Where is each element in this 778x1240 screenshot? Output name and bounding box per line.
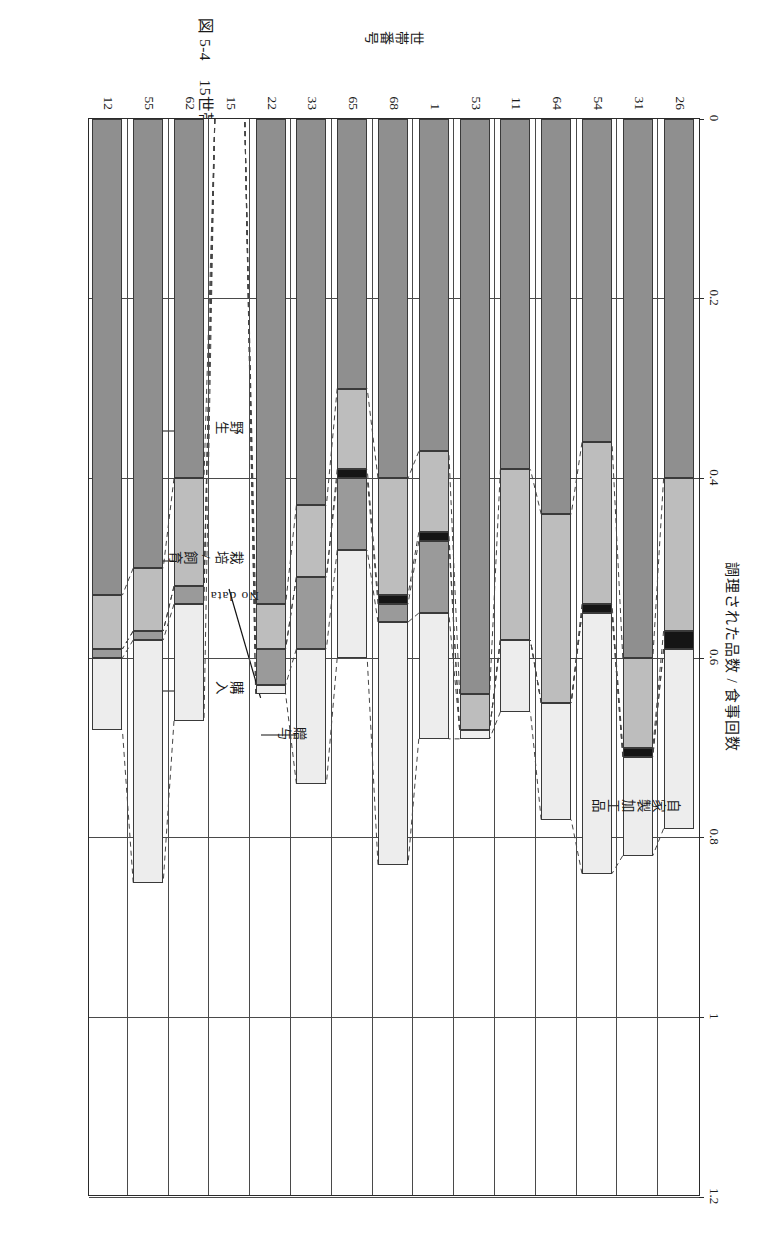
bar-segment-wild [296, 119, 326, 505]
x-gridline [89, 1017, 699, 1018]
y-category-label: 12 [100, 72, 116, 110]
bar-segment-wild [541, 119, 571, 514]
bar-segment-home [378, 595, 408, 604]
x-tick-label: 0.6 [706, 649, 722, 665]
y-gridline [412, 119, 413, 1195]
bar-segment-buy [500, 640, 530, 712]
bar-segment-gift [174, 586, 204, 604]
y-gridline [208, 119, 209, 1195]
y-gridline [616, 119, 617, 1195]
bar-segment-home [337, 469, 367, 478]
connector-line [490, 640, 501, 730]
rotated-page-frame: 図 5-4 15世帯の主な食材の由来（雨期） 調理された品数 / 食事回数 00… [0, 0, 778, 1240]
connector-line [286, 577, 297, 649]
x-tickmark [699, 837, 704, 838]
bar-segment-buy [296, 649, 326, 784]
y-category-label: 31 [631, 72, 647, 110]
y-gridline [372, 119, 373, 1195]
bar-segment-gift [337, 478, 367, 550]
x-tickmark [699, 119, 704, 120]
bar-segment-wild [378, 119, 408, 478]
y-category-label: 26 [672, 72, 688, 110]
y-category-label: 64 [549, 72, 565, 110]
y-category-label: 65 [345, 72, 361, 110]
bar-segment-buy [460, 730, 490, 739]
bar-segment-culti [133, 568, 163, 631]
connector-line [490, 640, 501, 730]
bar-segment-wild [419, 119, 449, 451]
bar-segment-gift [256, 649, 286, 685]
bar-segment-gift [378, 604, 408, 622]
x-axis-title: 調理された品数 / 食事回数 [723, 118, 744, 1196]
bar-segment-culti [460, 694, 490, 730]
chart-plot-wrapper: 自家製加工品No data野生栽培/飼育贈与購入 世帯番号 2631546411… [88, 118, 700, 1196]
connector-line [490, 640, 501, 730]
y-category-label: 22 [264, 72, 280, 110]
bar-segment-culti [92, 595, 122, 649]
bar-segment-culti [623, 658, 653, 748]
x-tick-label: 0.4 [706, 469, 722, 485]
y-category-label: 53 [468, 72, 484, 110]
y-gridline [290, 119, 291, 1195]
bar-segment-wild [133, 119, 163, 568]
x-tick-label: 0.8 [706, 829, 722, 845]
x-tick-label: 1 [706, 1013, 722, 1020]
bar-segment-culti [378, 478, 408, 595]
bar-segment-gift [419, 541, 449, 613]
x-tickmark [699, 658, 704, 659]
bar-segment-culti [174, 478, 204, 586]
connector-line [286, 505, 297, 604]
x-tickmark [699, 1197, 704, 1198]
y-gridline [249, 119, 250, 1195]
figure-number: 図 5-4 [197, 18, 214, 61]
x-tick-label: 0 [706, 115, 722, 122]
x-gridline [89, 1197, 699, 1198]
bar-segment-home [664, 631, 694, 649]
callout-culti: 栽培/飼育 [168, 549, 244, 563]
callout-wild: 野生 [214, 419, 244, 433]
bar-segment-culti [337, 389, 367, 470]
y-gridline [576, 119, 577, 1195]
y-category-label: 33 [304, 72, 320, 110]
y-category-label: 54 [590, 72, 606, 110]
callout-gift: 贈与 [277, 725, 307, 739]
x-axis-tick-labels: 00.20.40.60.811.2 [702, 118, 722, 1196]
bar-segment-wild [582, 119, 612, 442]
bar-segment-wild [500, 119, 530, 469]
bar-segment-wild [337, 119, 367, 389]
bar-segment-gift [133, 631, 163, 640]
bar-segment-buy [582, 613, 612, 874]
bar-segment-wild [256, 119, 286, 604]
connector-line [490, 469, 501, 694]
bar-segment-home [582, 604, 612, 613]
y-axis-title: 世帯番号 [364, 26, 424, 46]
bar-segment-culti [664, 478, 694, 631]
chart-plot-area: 自家製加工品No data野生栽培/飼育贈与購入 [88, 118, 700, 1196]
x-tick-label: 0.2 [706, 290, 722, 306]
bar-segment-buy [256, 685, 286, 694]
bar-segment-gift [92, 649, 122, 658]
bar-segment-buy [133, 640, 163, 883]
bar-segment-buy [378, 622, 408, 865]
x-tick-label: 1.2 [706, 1188, 722, 1204]
bar-segment-culti [256, 604, 286, 649]
y-category-label: 15 [223, 72, 239, 110]
bar-segment-wild [460, 119, 490, 694]
bar-segment-culti [419, 451, 449, 532]
bar-segment-buy [92, 658, 122, 730]
bar-segment-buy [174, 604, 204, 721]
x-tickmark [699, 1017, 704, 1018]
y-category-label: 1 [427, 72, 443, 110]
callout-buy: 購入 [214, 679, 244, 693]
y-category-label: 11 [508, 72, 524, 110]
y-category-label: 62 [182, 72, 198, 110]
bar-segment-gift [296, 577, 326, 649]
x-tickmark [699, 298, 704, 299]
y-category-label: 55 [141, 72, 157, 110]
bar-segment-home [623, 748, 653, 757]
bar-segment-buy [419, 613, 449, 739]
connector-line [286, 649, 297, 685]
y-gridline [168, 119, 169, 1195]
y-gridline [453, 119, 454, 1195]
bar-segment-culti [582, 442, 612, 604]
